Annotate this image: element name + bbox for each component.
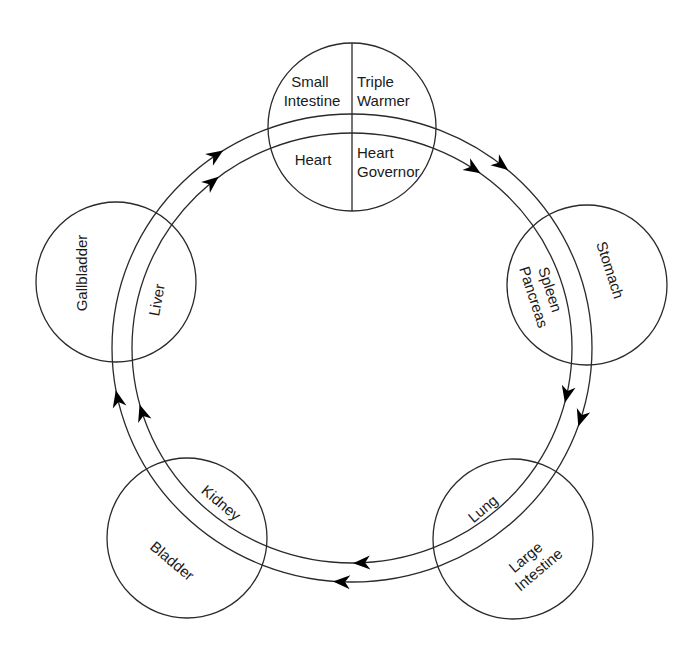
label-large-intestine: Large Intestine <box>500 531 566 594</box>
arrowhead-fire-to-earth-outer <box>490 154 508 170</box>
flow-arrows <box>113 150 590 589</box>
label-bladder: Bladder <box>147 537 198 583</box>
element-node-fire: Small Intestine Triple Warmer Heart Hear… <box>268 43 436 211</box>
label-spleen-pancreas: Spleen Pancreas <box>516 259 569 330</box>
five-element-cycle-diagram: Small Intestine Triple Warmer Heart Hear… <box>0 0 700 645</box>
arrowhead-fire-to-earth-inner <box>462 158 480 173</box>
label-heart: Heart <box>295 151 333 168</box>
element-node-wood: Gallbladder Liver <box>36 202 196 362</box>
arrowhead-wood-to-fire-inner <box>201 177 219 193</box>
label-stomach: Stomach <box>593 239 627 301</box>
label-triple-warmer: Triple Warmer <box>357 73 410 109</box>
label-heart-governor: Heart Governor <box>357 144 420 180</box>
element-node-water: Kidney Bladder <box>107 458 267 618</box>
wood-circle <box>36 202 196 362</box>
water-circle <box>107 458 267 618</box>
label-liver: Liver <box>145 282 167 317</box>
label-gallbladder: Gallbladder <box>73 235 90 312</box>
arrowhead-wood-to-fire-outer <box>205 150 223 165</box>
metal-circle <box>433 459 593 619</box>
element-node-earth: Stomach Spleen Pancreas <box>507 205 667 365</box>
label-kidney: Kidney <box>198 481 244 524</box>
element-node-metal: Lung Large Intestine <box>433 459 593 619</box>
label-small-intestine: Small Intestine <box>284 73 341 109</box>
